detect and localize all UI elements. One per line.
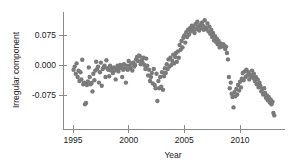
data-point [152, 67, 156, 71]
x-tick-label: 2000 [119, 135, 138, 145]
data-point [124, 80, 128, 84]
data-point [75, 75, 79, 79]
data-point [192, 31, 196, 35]
data-point [272, 113, 276, 117]
y-axis: -0.0750.0000.075 [32, 12, 67, 129]
data-point [231, 105, 235, 109]
x-axis-title: Year [164, 150, 181, 160]
data-point [145, 64, 149, 68]
data-point [92, 78, 96, 82]
data-point [99, 60, 103, 64]
data-point [84, 101, 88, 105]
scatter-plot: -0.0750.0000.075 1995200020052010 YearIr… [0, 0, 289, 163]
data-point [107, 74, 111, 78]
data-point [160, 70, 164, 74]
data-point [175, 60, 179, 64]
x-tick-label: 2005 [175, 135, 194, 145]
data-point [161, 88, 165, 92]
data-point [120, 75, 124, 79]
data-point [150, 71, 154, 75]
data-point [90, 89, 94, 93]
y-tick-label: -0.075 [32, 90, 56, 100]
data-point [78, 70, 82, 74]
data-point [177, 56, 181, 60]
data-point [100, 84, 104, 88]
data-point [226, 57, 230, 61]
data-point [183, 40, 187, 44]
data-point [173, 55, 177, 59]
data-point [88, 75, 92, 79]
data-point [155, 99, 159, 103]
data-point [228, 86, 232, 90]
data-point [113, 77, 117, 81]
x-tick-label: 2010 [231, 135, 250, 145]
y-axis-title: Irregular component [11, 31, 21, 108]
data-point [133, 63, 137, 67]
data-point [74, 61, 78, 65]
x-axis: 1995200020052010 [63, 125, 285, 145]
data-point [270, 100, 274, 104]
data-point [104, 58, 108, 62]
y-tick-label: 0.000 [35, 60, 57, 70]
data-point [149, 75, 153, 79]
y-tick-label: 0.075 [35, 30, 57, 40]
chart-screenshot: -0.0750.0000.075 1995200020052010 YearIr… [0, 0, 289, 163]
data-point [130, 68, 134, 72]
data-point [262, 86, 266, 90]
data-points [71, 18, 276, 118]
data-point [96, 64, 100, 68]
data-point [227, 75, 231, 79]
data-point [144, 56, 148, 60]
data-point [164, 71, 168, 75]
data-point [80, 58, 84, 62]
data-point [94, 60, 98, 64]
data-point [87, 65, 91, 69]
data-point [156, 79, 160, 83]
data-point [180, 45, 184, 49]
data-point [158, 75, 162, 79]
x-tick-label: 1995 [64, 135, 83, 145]
data-point [235, 92, 239, 96]
data-point [239, 85, 243, 89]
data-point [154, 72, 158, 76]
data-point [224, 44, 228, 48]
data-point [229, 80, 233, 84]
data-point [225, 51, 229, 55]
data-point [103, 75, 107, 79]
